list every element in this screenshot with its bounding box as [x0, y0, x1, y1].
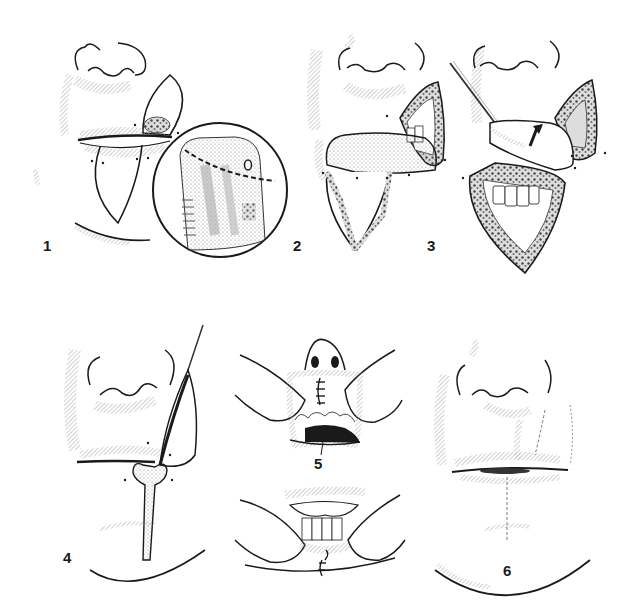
- oral-cavity: [305, 425, 360, 443]
- panel-2-drawing: [305, 30, 465, 260]
- inset-flap: [160, 370, 196, 466]
- donor-site-closure: [133, 464, 167, 560]
- panel-label-4: 4: [63, 550, 71, 565]
- panel-label-6: 6: [503, 563, 511, 578]
- panel-3-drawing: [455, 28, 625, 263]
- lower-lip-everted: [326, 133, 436, 173]
- panel-label-5: 5: [314, 456, 322, 471]
- panel-5: 5: [230, 330, 410, 590]
- panel-label-2: 2: [293, 238, 301, 253]
- retracting-finger-right: [345, 350, 402, 422]
- retracting-finger-left: [235, 355, 305, 421]
- panel-4: 4: [55, 325, 225, 585]
- panel-1: 1: [30, 35, 300, 295]
- upper-lip-scar: [535, 410, 545, 455]
- lower-lip-flap: [327, 172, 390, 250]
- lesion-magnified-inset: [30, 35, 300, 295]
- suture-needle: [188, 325, 203, 370]
- panel-3: 3: [455, 28, 625, 263]
- panel-6-drawing: [430, 335, 625, 585]
- panel-6: 6: [430, 335, 625, 585]
- panel-label-1: 1: [43, 238, 51, 253]
- panel-label-3: 3: [427, 238, 435, 253]
- panel-4-drawing: [55, 325, 225, 585]
- panel-2: 2: [305, 30, 465, 260]
- suture-upper: [316, 378, 325, 405]
